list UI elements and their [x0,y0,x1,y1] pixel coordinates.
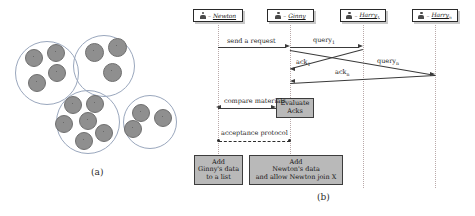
panel-a-caption: (a) [91,167,103,177]
person-icon [275,12,281,20]
cluster-dot [95,124,113,142]
actor-label-harry1: Harry1 [359,11,379,20]
actor-label-harryn: Harryn [431,11,451,20]
arrowhead-left [216,105,221,109]
cluster-dot [55,115,73,133]
cluster-dot [64,96,82,114]
message-label-ack-n: ackn [335,68,349,77]
arrowhead-left [290,67,295,71]
actor-label-newton: Newton [213,12,236,19]
cluster-dot [25,49,43,67]
lifeline-newton [218,23,219,158]
cluster-dot [48,64,66,82]
person-icon [418,12,424,20]
actor-dash: – [208,12,211,19]
actor-dash: – [283,12,286,19]
cluster-dot [47,44,65,62]
lifeline-ginny [290,23,291,158]
cluster-dot [79,112,97,130]
person-icon [200,12,206,20]
person-icon [346,12,352,20]
lifeline-harry1 [363,23,364,188]
arrowhead-right [358,44,363,48]
cluster-dot [154,109,172,127]
process-box-add-newton-data[interactable]: Add Newton's data and allow Newton join … [249,155,343,185]
message-label-send-a-request: send a request [227,37,276,45]
actor-dash: – [426,12,429,19]
process-box-line: and allow Newton join X [256,174,337,182]
panel-b-sequence-diagram: – Newton – Ginny – Harry1 – Harryn send … [185,0,475,216]
cluster-dot [75,132,93,150]
message-line-acceptance-protocol [219,141,290,142]
message-line-send-a-request [218,47,286,48]
cluster-dot [28,74,46,92]
figure-root: (a) – Newton – Ginny – Harry1 – Harryn [0,0,475,216]
message-line-query-1 [290,47,359,48]
process-box-line: Acks [287,108,303,116]
message-label-acceptance-protocol: acceptance protocol [221,129,288,137]
actor-header-newton[interactable]: – Newton [193,9,243,22]
panel-b-caption: (b) [317,192,330,202]
arrowhead-left [290,79,295,83]
lifeline-harryn [435,23,436,188]
actor-dash: – [354,12,357,19]
actor-header-harry1[interactable]: – Harry1 [340,9,386,22]
cluster-dot [85,43,104,62]
actor-header-ginny[interactable]: – Ginny [267,9,314,22]
process-box-line: to a list [206,174,231,182]
panel-a-clusters: (a) [0,0,200,216]
cluster-dot [124,120,142,138]
cluster-dot [108,38,127,57]
arrowhead-right [271,105,276,109]
actor-label-ginny: Ginny [288,12,305,19]
message-label-compare-materials: compare materials [224,97,286,105]
message-line-compare-materials [218,108,276,109]
cluster-dot [103,63,122,82]
cluster-dot [86,95,104,113]
process-box-add-ginny-data[interactable]: Add Ginny's data to a list [194,155,243,185]
actor-header-harryn[interactable]: – Harryn [412,9,458,22]
message-label-query-1: query1 [313,36,335,45]
